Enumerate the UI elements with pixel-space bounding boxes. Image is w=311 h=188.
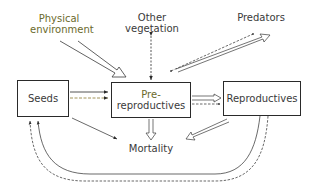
label-othervegetation-line2: vegetation xyxy=(124,23,180,34)
label-mortality: Mortality xyxy=(124,143,178,154)
arrow-prereproductives-to-predators xyxy=(176,34,270,72)
label-physical-environment: Physical environment xyxy=(30,13,88,35)
arrow-physical-to-prereproductives xyxy=(60,41,126,77)
label-predators: Predators xyxy=(236,12,286,23)
node-reproductives: Reproductives xyxy=(223,81,301,116)
node-prereproductives: Pre- reproductives xyxy=(111,82,191,118)
node-prereproductives-line2: reproductives xyxy=(117,100,186,111)
population-flow-diagram: Physical environment Other vegetation Pr… xyxy=(0,0,311,188)
node-seeds-label: Seeds xyxy=(28,93,58,104)
arrow-predators-dashed xyxy=(171,34,253,71)
label-other-vegetation: Other vegetation xyxy=(124,12,180,34)
arrow-seeds-to-mortality xyxy=(72,118,117,139)
arrow-prereproductives-to-reproductives xyxy=(192,94,221,104)
arrow-prereproductives-to-mortality xyxy=(146,119,156,140)
label-physical-line1: Physical xyxy=(30,13,88,24)
label-othervegetation-line1: Other xyxy=(124,12,180,23)
label-physical-line2: environment xyxy=(30,24,88,35)
arrow-seeds-to-prereproductives xyxy=(70,92,108,98)
node-prereproductives-line1: Pre- xyxy=(141,89,161,100)
node-reproductives-label: Reproductives xyxy=(226,93,297,104)
node-seeds: Seeds xyxy=(17,80,69,117)
arrow-reproductives-to-mortality xyxy=(186,119,229,140)
